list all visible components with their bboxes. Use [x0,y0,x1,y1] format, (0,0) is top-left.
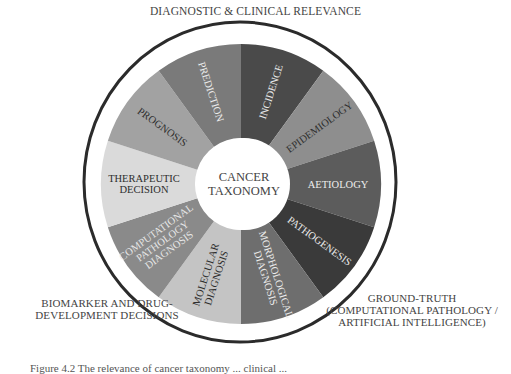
svg-text:AETIOLOGY: AETIOLOGY [308,179,369,190]
center-title-line-2: TAXONOMY [208,184,280,198]
bottom-right-line-1: GROUND-TRUTH [312,292,511,304]
figure-caption: Figure 4.2 The relevance of cancer taxon… [30,362,287,374]
bottom-right-line-2: (COMPUTATIONAL PATHOLOGY / [312,304,511,316]
bottom-right-outer-label: GROUND-TRUTH (COMPUTATIONAL PATHOLOGY / … [312,292,511,328]
svg-text:THERAPEUTIC: THERAPEUTIC [108,173,180,184]
bottom-right-line-3: ARTIFICIAL INTELLIGENCE) [312,316,511,328]
bottom-left-outer-label: BIOMARKER AND DRUG- DEVELOPMENT DECISION… [2,297,212,321]
center-title-line-1: CANCER [219,170,270,184]
segment-label-aetiology: AETIOLOGY [308,179,369,190]
svg-text:DECISION: DECISION [120,184,169,195]
bottom-left-line-2: DEVELOPMENT DECISIONS [2,309,212,321]
bottom-left-line-1: BIOMARKER AND DRUG- [2,297,212,309]
